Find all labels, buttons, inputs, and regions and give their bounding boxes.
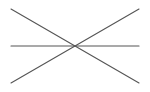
lines-group xyxy=(11,9,139,83)
three-lines-intersection-diagram xyxy=(0,0,150,92)
